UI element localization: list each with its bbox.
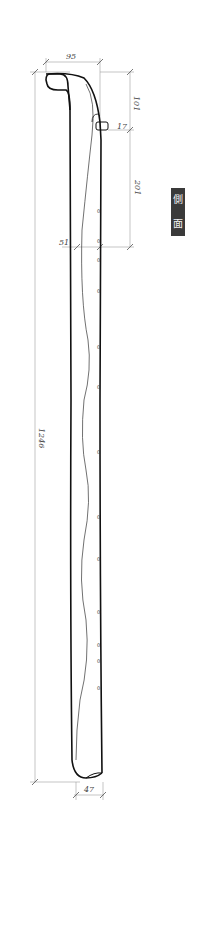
svg-text:0: 0 [97,685,100,691]
view-label-side: 側 面 [171,188,185,236]
svg-text:0: 0 [97,238,100,244]
svg-text:0: 0 [97,658,100,664]
dim-neck-width: 51 [59,238,69,247]
dim-head-height: 101 [132,96,141,111]
svg-text:0: 0 [97,384,100,390]
svg-text:0: 0 [97,642,100,648]
dim-head-width: 95 [66,52,76,61]
svg-text:0: 0 [97,257,100,263]
dim-bottom-width: 47 [83,785,95,794]
svg-text:0: 0 [97,556,100,562]
svg-text:0: 0 [97,344,100,350]
svg-text:0: 0 [97,514,100,520]
instrument-outline [46,74,108,779]
dim-upper-section: 201 [133,179,142,195]
svg-text:0: 0 [97,208,100,214]
svg-text:0: 0 [97,609,100,615]
dim-peg: 17 [117,122,128,131]
view-label-char-1: 側 [173,194,183,206]
dim-total-length: 1246 [37,428,46,448]
svg-text:0: 0 [97,449,100,455]
svg-text:0: 0 [97,288,100,294]
side-view-drawing: 0 0 0 0 0 0 0 0 0 0 0 0 0 95 101 17 201 … [0,0,199,941]
view-label-char-2: 面 [173,218,183,230]
